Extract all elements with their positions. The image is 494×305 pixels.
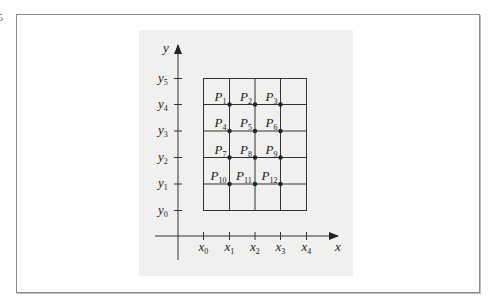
y-tick-label: y2 — [156, 149, 168, 166]
point-label: P4 — [214, 115, 227, 132]
point-label: P8 — [239, 142, 252, 159]
grid-point-dot — [253, 155, 257, 159]
y-tick-label: y4 — [156, 96, 168, 113]
grid-point-dot — [253, 129, 257, 133]
grid-diagram: x0x1x2x3x4 y0y1y2y3y4y5 P1P2P3P4P5P6P7P8… — [0, 0, 494, 305]
point-label: P9 — [265, 142, 278, 159]
x-tick-label: x1 — [224, 239, 235, 256]
grid-point-dot — [227, 182, 231, 186]
point-label: P2 — [239, 89, 252, 106]
x-tick-label: x4 — [301, 239, 312, 256]
y-axis-label: y — [161, 40, 169, 55]
x-tick-label: x3 — [275, 239, 286, 256]
point-label: P7 — [214, 142, 227, 159]
y-tick-label: y5 — [156, 70, 168, 87]
y-tick-label: y1 — [156, 175, 168, 192]
point-label: P6 — [265, 115, 278, 132]
grid-point-dot — [227, 129, 231, 133]
point-label: P1 — [214, 89, 227, 106]
grid-point-dot — [253, 182, 257, 186]
x-axis-label: x — [334, 239, 341, 254]
grid-point-dot — [278, 155, 282, 159]
grid-point-dot — [278, 129, 282, 133]
point-label: P5 — [239, 115, 252, 132]
y-tick-label: y3 — [156, 122, 168, 139]
grid-points: P1P2P3P4P5P6P7P8P9P10P11P12 — [210, 89, 283, 187]
x-tick-label: x2 — [249, 239, 260, 256]
point-label: P12 — [261, 168, 278, 185]
x-tick-label: x0 — [198, 239, 209, 256]
y-tick-label: y0 — [156, 202, 168, 219]
grid-point-dot — [227, 155, 231, 159]
grid-point-dot — [278, 102, 282, 106]
point-label: P10 — [210, 168, 227, 185]
grid-point-dot — [227, 102, 231, 106]
grid-point-dot — [278, 182, 282, 186]
grid-point-dot — [253, 102, 257, 106]
point-label: P3 — [265, 89, 278, 106]
point-label: P11 — [235, 168, 252, 185]
